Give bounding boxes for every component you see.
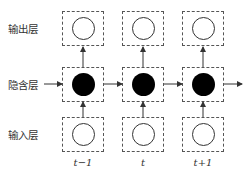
arrows-layer: [0, 0, 249, 174]
